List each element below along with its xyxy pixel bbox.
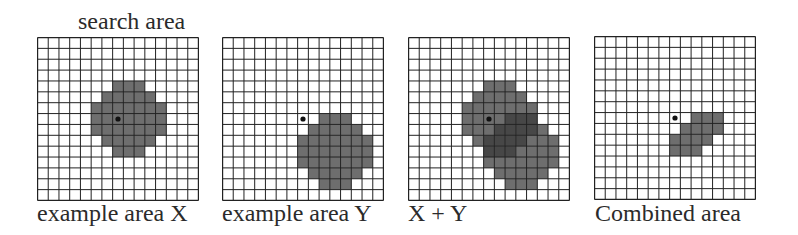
shaded-cell: [484, 135, 495, 146]
shaded-cell: [537, 168, 548, 179]
shaded-cell: [341, 124, 352, 135]
shaded-cell: [308, 146, 319, 157]
panel-x-plus-y: [408, 37, 569, 200]
shaded-cell: [516, 179, 527, 190]
shaded-cell: [330, 168, 341, 179]
center-dot-icon: [300, 116, 305, 121]
shaded-cell: [341, 157, 352, 168]
shaded-cell: [713, 123, 724, 134]
shaded-cell: [484, 146, 495, 157]
shaded-cell: [102, 114, 113, 125]
shaded-cell: [156, 124, 167, 135]
shaded-cell: [145, 135, 156, 146]
shaded-cell: [505, 81, 516, 92]
shaded-cell: [134, 124, 145, 135]
shaded-cell: [330, 135, 341, 146]
shaded-cell: [102, 124, 113, 135]
shaded-cell: [351, 157, 362, 168]
shaded-cell: [123, 81, 134, 92]
shaded-cell: [156, 103, 167, 114]
shaded-cell: [473, 114, 484, 125]
shaded-cell: [494, 103, 505, 114]
shaded-cell: [308, 168, 319, 179]
shaded-cell: [505, 168, 516, 179]
shaded-cell: [516, 103, 527, 114]
shaded-cell: [91, 103, 102, 114]
shaded-cell: [691, 134, 702, 145]
shaded-cell: [516, 92, 527, 103]
center-dot-icon: [672, 115, 677, 120]
shaded-cell: [462, 114, 473, 125]
grid-svg: [408, 37, 570, 201]
shaded-cell: [516, 114, 527, 125]
shaded-cell: [494, 168, 505, 179]
shaded-cell: [494, 124, 505, 135]
shaded-cell: [505, 103, 516, 114]
shaded-cell: [691, 123, 702, 134]
label-x-plus-y: X + Y: [408, 201, 467, 225]
shaded-cell: [527, 168, 538, 179]
shaded-cell: [156, 114, 167, 125]
shaded-cell: [362, 157, 373, 168]
shaded-cell: [537, 146, 548, 157]
shaded-cell: [123, 92, 134, 103]
shaded-cell: [145, 114, 156, 125]
shaded-cell: [341, 146, 352, 157]
shaded-cell: [702, 134, 713, 145]
shaded-cell: [527, 135, 538, 146]
shaded-cell: [145, 92, 156, 103]
shaded-cell: [319, 114, 330, 125]
shaded-cell: [102, 135, 113, 146]
shaded-cell: [537, 124, 548, 135]
shaded-cell: [505, 124, 516, 135]
shaded-cell: [473, 135, 484, 146]
shaded-cell: [123, 146, 134, 157]
shaded-cell: [680, 145, 691, 156]
center-dot-icon: [115, 116, 120, 121]
shaded-cell: [473, 103, 484, 114]
shaded-cell: [462, 124, 473, 135]
shaded-cell: [548, 146, 559, 157]
shaded-cell: [713, 113, 724, 124]
shaded-cell: [680, 134, 691, 145]
shaded-cell: [123, 114, 134, 125]
shaded-cell: [362, 146, 373, 157]
shaded-cell: [351, 135, 362, 146]
shaded-cell: [123, 103, 134, 114]
shaded-cell: [505, 146, 516, 157]
shaded-cell: [494, 114, 505, 125]
shaded-cell: [308, 157, 319, 168]
shaded-cell: [702, 123, 713, 134]
shaded-cell: [351, 124, 362, 135]
shaded-cell: [134, 103, 145, 114]
shaded-cell: [298, 146, 309, 157]
shaded-cell: [308, 135, 319, 146]
shaded-cell: [319, 168, 330, 179]
shaded-cell: [102, 103, 113, 114]
shaded-cell: [527, 157, 538, 168]
shaded-cell: [548, 157, 559, 168]
shaded-cell: [516, 124, 527, 135]
shaded-cell: [341, 135, 352, 146]
shaded-cell: [362, 135, 373, 146]
shaded-cell: [516, 135, 527, 146]
shaded-cell: [330, 179, 341, 190]
shaded-cell: [702, 113, 713, 124]
shaded-cell: [527, 114, 538, 125]
shaded-cell: [670, 145, 681, 156]
shaded-cell: [330, 124, 341, 135]
label-example-area-y: example area Y: [222, 201, 372, 225]
shaded-cell: [505, 92, 516, 103]
shaded-cell: [537, 135, 548, 146]
label-example-area-x: example area X: [37, 201, 188, 225]
grid-svg: [222, 37, 384, 201]
shaded-cell: [319, 157, 330, 168]
shaded-cell: [537, 157, 548, 168]
shaded-cell: [319, 179, 330, 190]
shaded-cell: [484, 103, 495, 114]
shaded-cell: [134, 81, 145, 92]
shaded-cell: [505, 179, 516, 190]
shaded-cell: [308, 124, 319, 135]
shaded-cell: [134, 92, 145, 103]
shaded-cell: [113, 124, 124, 135]
